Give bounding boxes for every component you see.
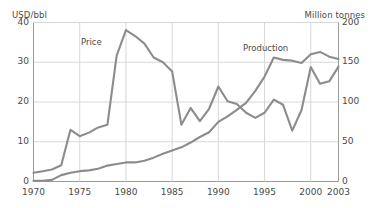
x-axis-tick: 1995 — [245, 187, 285, 197]
y-axis-left-tick: 20 — [5, 96, 29, 106]
y-axis-right-tick: 200 — [342, 17, 368, 27]
series-label-price: Price — [81, 37, 102, 47]
y-axis-right-tick: 0 — [342, 176, 368, 186]
y-axis-right-tick: 150 — [342, 56, 368, 66]
x-axis-tick: 1990 — [198, 187, 238, 197]
plot-area — [0, 0, 371, 208]
y-axis-left-tick: 40 — [5, 17, 29, 27]
y-axis-left-tick: 0 — [5, 176, 29, 186]
y-axis-left-tick: 10 — [5, 136, 29, 146]
x-axis-tick: 1975 — [60, 187, 100, 197]
oil-price-production-chart: USD/bbl Million tonnes Price Production … — [0, 0, 371, 208]
x-axis-tick: 1980 — [106, 187, 146, 197]
x-axis-tick: 1970 — [14, 187, 54, 197]
y-axis-right-tick: 100 — [342, 96, 368, 106]
y-axis-right-tick: 50 — [342, 136, 368, 146]
series-label-production: Production — [243, 43, 288, 53]
y-axis-left-tick: 30 — [5, 56, 29, 66]
x-axis-tick: 2003 — [319, 187, 359, 197]
x-axis-tick: 1985 — [152, 187, 192, 197]
